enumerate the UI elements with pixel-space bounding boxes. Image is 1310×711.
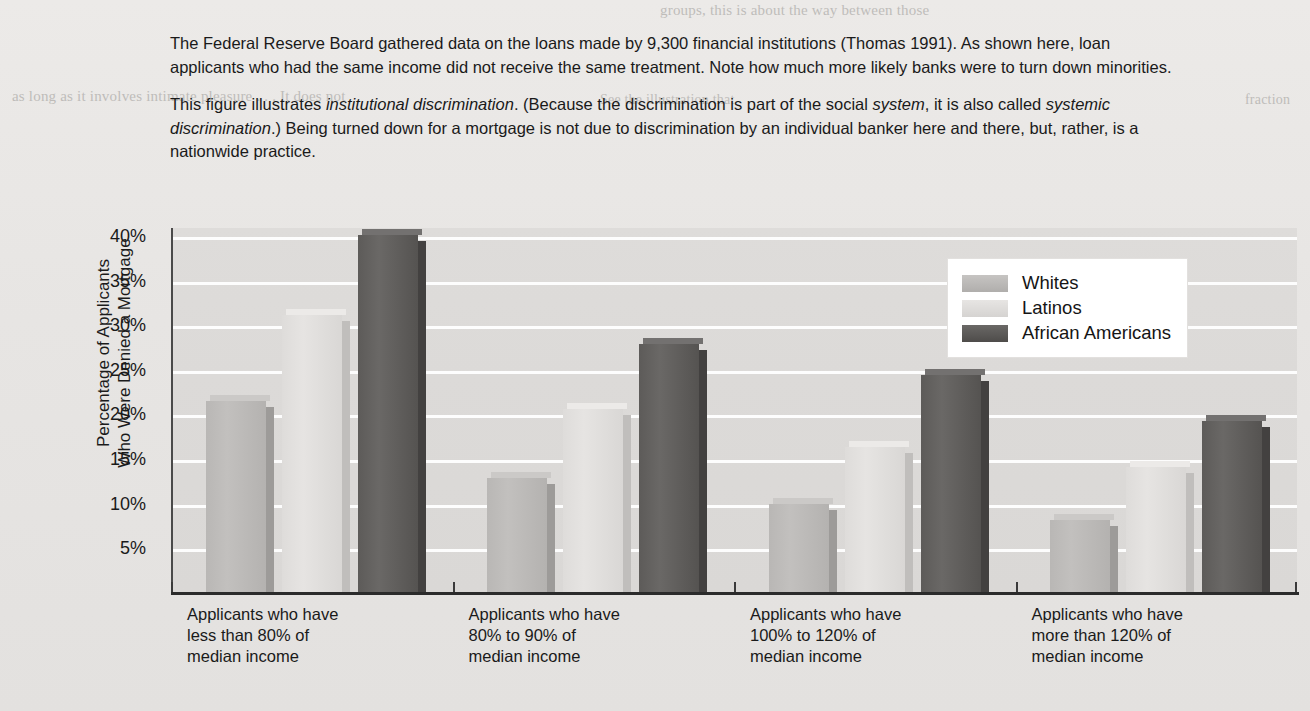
x-axis-category-label: Applicants who haveless than 80% ofmedia… (171, 604, 453, 667)
bar-african-americans[interactable] (921, 375, 981, 592)
bar-side (1110, 526, 1118, 592)
ghost-text-right: fraction (1245, 92, 1290, 108)
caption-p2-part-a: This figure illustrates (170, 95, 326, 113)
y-axis-ticks: 40%35%30%25%20%15%10%5% (84, 228, 146, 594)
y-axis-tick-label: 10% (86, 494, 146, 515)
ghost-text-top: groups, this is about the way between th… (660, 2, 929, 19)
bar-latinos[interactable] (845, 447, 905, 593)
figure-page: groups, this is about the way between th… (0, 0, 1310, 711)
bar-face (1126, 467, 1186, 592)
bar-side (266, 407, 274, 592)
bar-face (639, 344, 699, 592)
bar-face (845, 447, 905, 593)
bar-side (699, 350, 707, 592)
x-axis-category-line: more than 120% of (1032, 625, 1298, 646)
bar-face (282, 315, 342, 592)
caption-paragraph-1: The Federal Reserve Board gathered data … (170, 32, 1175, 79)
bar-latinos[interactable] (282, 315, 342, 592)
x-axis-category-line: Applicants who have (750, 604, 1016, 625)
bar-top (1130, 461, 1190, 467)
bar-group (453, 228, 735, 592)
legend-swatch (962, 325, 1008, 342)
bar-side (623, 415, 631, 592)
bar-top (849, 441, 909, 447)
x-axis-category-label: Applicants who have100% to 120% ofmedian… (734, 604, 1016, 667)
caption-paragraph-2: This figure illustrates institutional di… (170, 93, 1175, 164)
bar-face (1202, 421, 1262, 592)
bar-face (487, 478, 547, 592)
x-axis-category-line: median income (187, 646, 453, 667)
bar-face (1050, 520, 1110, 592)
bar-african-americans[interactable] (358, 235, 418, 592)
bar-side (1186, 473, 1194, 592)
bar-top (1206, 415, 1266, 421)
legend-label: Whites (1022, 272, 1079, 294)
x-axis-tick (171, 582, 173, 592)
y-axis-tick-label: 40% (86, 226, 146, 247)
x-axis-category-line: Applicants who have (187, 604, 453, 625)
bar-whites[interactable] (769, 504, 829, 592)
legend-item-whites[interactable]: Whites (962, 272, 1171, 294)
bar-whites[interactable] (206, 401, 266, 592)
bar-side (1262, 427, 1270, 592)
y-axis-tick-label: 20% (86, 404, 146, 425)
x-axis-category-line: 100% to 120% of (750, 625, 1016, 646)
x-axis-labels: Applicants who haveless than 80% ofmedia… (171, 604, 1297, 667)
legend-swatch (962, 300, 1008, 317)
bar-side (981, 381, 989, 592)
bar-top (925, 369, 985, 375)
bar-group-bars (453, 228, 735, 592)
caption-p2-part-d: .) Being turned down for a mortgage is n… (170, 119, 1139, 161)
legend-label: Latinos (1022, 297, 1082, 319)
caption-p2-part-c: , it is also called (925, 95, 1046, 113)
caption-term-system: system (873, 95, 925, 113)
bar-whites[interactable] (487, 478, 547, 592)
x-axis-tick (1016, 582, 1018, 592)
x-axis-category-line: median income (750, 646, 1016, 667)
bar-chart: Percentage of Applicants Who Were Denied… (52, 228, 1297, 678)
x-axis-line (171, 592, 1299, 595)
x-axis-category-line: 80% to 90% of (469, 625, 735, 646)
bar-top (567, 403, 627, 409)
figure-caption: The Federal Reserve Board gathered data … (170, 32, 1175, 178)
x-axis-category-line: median income (1032, 646, 1298, 667)
legend-swatch (962, 275, 1008, 292)
x-axis-category-line: Applicants who have (469, 604, 735, 625)
bar-whites[interactable] (1050, 520, 1110, 592)
y-axis-tick-label: 25% (86, 360, 146, 381)
x-axis-category-line: less than 80% of (187, 625, 453, 646)
bar-top (286, 309, 346, 315)
bar-face (563, 409, 623, 592)
y-axis-tick-label: 30% (86, 315, 146, 336)
bar-group-bars (171, 228, 453, 592)
bar-latinos[interactable] (563, 409, 623, 592)
caption-term-institutional-discrimination: institutional discrimination (326, 95, 514, 113)
bar-top (773, 498, 833, 504)
caption-p2-part-b: . (Because the discrimination is part of… (514, 95, 873, 113)
bar-african-americans[interactable] (1202, 421, 1262, 592)
bar-side (829, 510, 837, 592)
bar-side (547, 484, 555, 592)
bar-face (206, 401, 266, 592)
bar-face (769, 504, 829, 592)
bar-side (418, 241, 426, 592)
y-axis-tick-label: 5% (86, 538, 146, 559)
y-axis-tick-label: 15% (86, 449, 146, 470)
x-axis-category-line: median income (469, 646, 735, 667)
bar-face (358, 235, 418, 592)
bar-african-americans[interactable] (639, 344, 699, 592)
bar-top (491, 472, 551, 478)
bar-face (921, 375, 981, 592)
bar-latinos[interactable] (1126, 467, 1186, 592)
legend-item-african-americans[interactable]: African Americans (962, 322, 1171, 344)
bar-top (362, 229, 422, 235)
x-axis-category-label: Applicants who havemore than 120% ofmedi… (1016, 604, 1298, 667)
bar-side (905, 453, 913, 593)
legend-item-latinos[interactable]: Latinos (962, 297, 1171, 319)
bar-top (1054, 514, 1114, 520)
x-axis-category-label: Applicants who have80% to 90% ofmedian i… (453, 604, 735, 667)
chart-legend: WhitesLatinosAfrican Americans (947, 258, 1188, 358)
legend-label: African Americans (1022, 322, 1171, 344)
bar-top (210, 395, 270, 401)
y-axis-tick-label: 35% (86, 271, 146, 292)
